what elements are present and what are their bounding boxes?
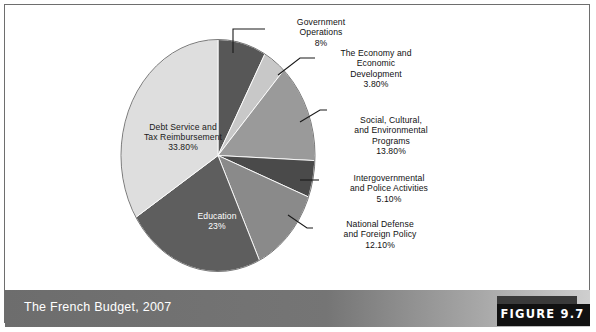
callout-economy-line3: Development <box>318 69 434 79</box>
figure-number-label: FIGURE 9.7 <box>497 307 588 321</box>
callout-defense-pct: 12.10% <box>316 240 444 250</box>
callout-government-operations-line2: Operations <box>269 27 373 37</box>
callout-label-economy: The Economy and Economic Development 3.8… <box>318 48 434 90</box>
callout-economy-pct: 3.80% <box>318 79 434 89</box>
slice-label-debt-service-line1: Debt Service and <box>124 122 242 132</box>
callout-defense-line1: National Defense <box>316 219 444 229</box>
callout-economy-line2: Economic <box>318 58 434 68</box>
callout-defense-line2: and Foreign Policy <box>316 229 444 239</box>
callout-social-line2: and Environmental <box>330 125 452 135</box>
callout-social-pct: 13.80% <box>330 146 452 156</box>
slice-label-debt-service: Debt Service and Tax Reimbursement 33.80… <box>124 122 242 152</box>
slice-label-debt-service-line2: Tax Reimbursement <box>124 132 242 142</box>
callout-government-operations-line1: Government <box>269 17 373 27</box>
pie-slice-group <box>121 40 315 272</box>
pie-chart <box>118 38 318 273</box>
slice-label-education-pct: 23% <box>182 221 252 231</box>
callout-label-intergovernmental: Intergovernmental and Police Activities … <box>322 173 456 204</box>
callout-intergovernmental-line1: Intergovernmental <box>322 173 456 183</box>
callout-label-social: Social, Cultural, and Environmental Prog… <box>330 115 452 157</box>
figure-caption-text: The French Budget, 2007 <box>24 300 172 314</box>
slice-label-education: Education 23% <box>182 211 252 231</box>
callout-social-line3: Programs <box>330 136 452 146</box>
figure-number-tab: FIGURE 9.7 <box>497 296 590 326</box>
callout-economy-line1: The Economy and <box>318 48 434 58</box>
figure-number-tab-accent <box>497 296 577 304</box>
figure-container: Debt Service and Tax Reimbursement 33.80… <box>0 0 596 332</box>
callout-label-defense: National Defense and Foreign Policy 12.1… <box>316 219 444 250</box>
callout-social-line1: Social, Cultural, <box>330 115 452 125</box>
callout-label-government-operations: Government Operations 8% <box>269 17 373 48</box>
callout-government-operations-pct: 8% <box>269 38 373 48</box>
callout-intergovernmental-line2: and Police Activities <box>322 183 456 193</box>
callout-intergovernmental-pct: 5.10% <box>322 194 456 204</box>
chart-plot-area: Debt Service and Tax Reimbursement 33.80… <box>0 0 596 288</box>
slice-label-debt-service-pct: 33.80% <box>124 142 242 152</box>
slice-label-education-line1: Education <box>182 211 252 221</box>
